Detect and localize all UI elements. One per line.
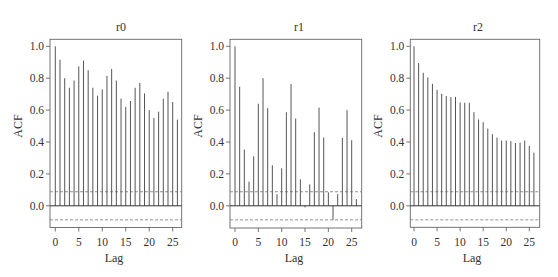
x-tick-label: 20 [323, 236, 335, 248]
y-tick-label: 0.0 [210, 200, 225, 212]
y-axis-label: ACF [11, 114, 25, 138]
y-tick-label: 0.8 [390, 72, 405, 84]
acf-panel-r0: r0 Lag ACF 0.00.20.40.60.81.00510152025 [11, 20, 182, 265]
y-tick-label: 0.2 [210, 168, 225, 180]
x-axis-label: Lag [105, 251, 124, 265]
x-tick-label: 5 [434, 236, 440, 248]
y-tick-label: 1.0 [210, 40, 225, 52]
x-tick-label: 10 [276, 236, 288, 248]
y-tick-label: 0.6 [30, 104, 45, 116]
x-tick-label: 10 [454, 236, 466, 248]
x-tick-label: 20 [143, 236, 155, 248]
y-tick-label: 0.2 [390, 168, 405, 180]
x-axis-label: Lag [285, 251, 304, 265]
y-tick-label: 0.0 [30, 200, 45, 212]
x-tick-label: 25 [524, 236, 536, 248]
panel-title: r0 [116, 20, 126, 34]
x-tick-label: 0 [52, 236, 58, 248]
x-tick-label: 5 [255, 236, 261, 248]
y-axis-label: ACF [371, 114, 385, 138]
y-tick-label: 1.0 [390, 40, 405, 52]
y-tick-label: 0.6 [390, 104, 405, 116]
panel-title: r2 [473, 20, 483, 34]
y-tick-label: 0.8 [210, 72, 225, 84]
y-tick-label: 0.0 [390, 200, 405, 212]
y-tick-label: 0.4 [210, 136, 225, 148]
x-tick-label: 15 [299, 236, 311, 248]
x-tick-label: 0 [232, 236, 238, 248]
y-tick-label: 0.8 [30, 72, 45, 84]
y-tick-label: 0.6 [210, 104, 225, 116]
y-tick-label: 0.2 [30, 168, 45, 180]
y-axis-label: ACF [191, 114, 205, 138]
y-tick-label: 0.4 [30, 136, 45, 148]
acf-figure: r0 Lag ACF 0.00.20.40.60.81.00510152025 … [0, 0, 558, 277]
x-tick-label: 0 [411, 236, 417, 248]
x-tick-label: 15 [120, 236, 132, 248]
x-tick-label: 25 [346, 236, 358, 248]
panel-title: r1 [294, 20, 304, 34]
y-tick-label: 1.0 [30, 40, 45, 52]
x-axis-label: Lag [463, 251, 482, 265]
x-tick-label: 15 [477, 236, 489, 248]
acf-panel-r2: r2 Lag ACF 0.00.20.40.60.81.00510152025 [371, 20, 540, 265]
x-tick-label: 20 [500, 236, 512, 248]
x-tick-label: 10 [97, 236, 109, 248]
acf-panel-r1: r1 Lag ACF 0.00.20.40.60.81.00510152025 [191, 20, 362, 265]
x-tick-label: 25 [167, 236, 179, 248]
y-tick-label: 0.4 [390, 136, 405, 148]
x-tick-label: 5 [76, 236, 82, 248]
